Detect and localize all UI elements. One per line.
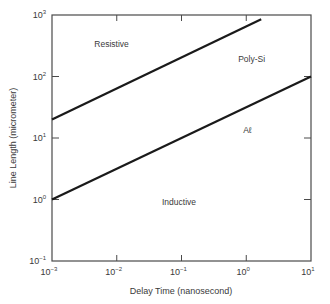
annotation-label: Resistive	[94, 39, 129, 49]
y-tick-label: 102	[33, 71, 47, 82]
annotation-label: Aℓ	[243, 125, 252, 135]
y-tick-label: 101	[33, 132, 47, 143]
annotation-label: Inductive	[162, 197, 196, 207]
series-line-a	[52, 77, 311, 200]
y-axis-title: Line Length (micrometer)	[8, 88, 18, 189]
x-tick-label: 10−3	[41, 266, 59, 277]
x-tick-label: 10−1	[170, 266, 188, 277]
log-log-chart: 10−310−210−110010110310210110010−1 Resis…	[0, 0, 330, 304]
series-line-polysi	[52, 19, 261, 119]
region-annotations: ResistivePoly-SiAℓInductive	[94, 39, 265, 207]
y-tick-label: 100	[33, 194, 47, 205]
x-axis-title: Delay Time (nanosecond)	[130, 286, 233, 296]
x-tick-label: 100	[237, 266, 251, 277]
x-tick-label: 101	[301, 266, 315, 277]
data-series	[52, 19, 311, 199]
annotation-label: Poly-Si	[238, 54, 265, 64]
x-tick-label: 10−2	[105, 266, 123, 277]
y-tick-label: 10−1	[29, 255, 47, 266]
y-tick-label: 103	[33, 9, 47, 20]
